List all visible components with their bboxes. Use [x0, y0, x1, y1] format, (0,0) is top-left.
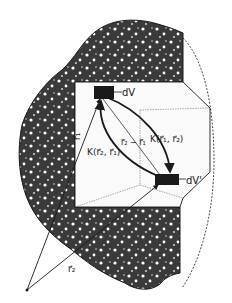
label-r2: r⃗₂: [68, 264, 76, 274]
label-kernel-forward: K(r⃗₁, r⃗₂): [150, 134, 183, 144]
label-kernel-backward: K(r⃗₂, r⃗₁): [87, 147, 120, 157]
label-dv-prime: dV': [186, 175, 202, 186]
volume-element-dv-prime: [155, 174, 179, 185]
label-difference-vector: r⃗₂ − r⃗₁: [121, 138, 146, 147]
diagram-canvas: dV dV' r⃗₁ r⃗₂ r⃗₂ − r⃗₁ K(r⃗₁, r⃗₂) K(r…: [0, 0, 232, 303]
label-r1: r⃗₁: [72, 132, 82, 140]
volume-element-dv: [94, 86, 114, 99]
label-dv: dV: [122, 87, 135, 98]
